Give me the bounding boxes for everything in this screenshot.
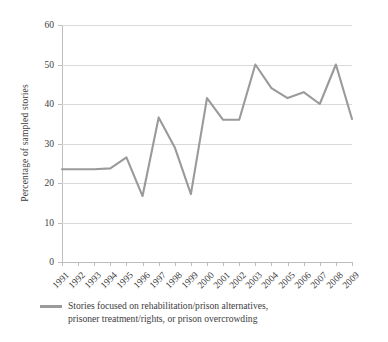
x-tick-mark [110, 262, 111, 266]
x-tick-mark [239, 262, 240, 266]
y-tick-label: 0 [28, 257, 54, 267]
y-tick-label: 10 [28, 218, 54, 228]
x-tick-mark [288, 262, 289, 266]
y-tick-label: 40 [28, 99, 54, 109]
chart-figure: Percentage of sampled stories 0102030405… [0, 0, 388, 342]
x-tick-mark [175, 262, 176, 266]
legend-line-swatch [40, 305, 62, 308]
x-tick-mark [304, 262, 305, 266]
x-tick-mark [78, 262, 79, 266]
legend-label-line2: prisoner treatment/rights, or prison ove… [68, 313, 257, 324]
y-tick-label: 60 [28, 20, 54, 30]
series-line-chart [62, 25, 352, 262]
x-tick-mark [143, 262, 144, 266]
y-tick-label: 30 [28, 139, 54, 149]
legend-label: Stories focused on rehabilitation/prison… [68, 300, 268, 325]
chart-legend: Stories focused on rehabilitation/prison… [40, 300, 370, 325]
y-tick-label: 20 [28, 178, 54, 188]
x-tick-mark [320, 262, 321, 266]
x-tick-mark [94, 262, 95, 266]
x-tick-mark [62, 262, 63, 266]
x-tick-mark [126, 262, 127, 266]
y-tick-label: 50 [28, 60, 54, 70]
x-tick-mark [191, 262, 192, 266]
x-tick-mark [255, 262, 256, 266]
x-tick-mark [159, 262, 160, 266]
x-tick-mark [271, 262, 272, 266]
x-tick-mark [352, 262, 353, 266]
x-tick-mark [223, 262, 224, 266]
x-tick-mark [207, 262, 208, 266]
series-line-path [62, 65, 352, 197]
legend-label-line1: Stories focused on rehabilitation/prison… [68, 300, 268, 311]
x-tick-mark [336, 262, 337, 266]
